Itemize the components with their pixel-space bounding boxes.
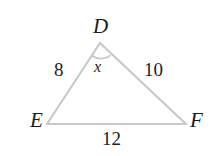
geometry-figure: D E F 8 10 12 x	[0, 0, 216, 156]
side-length-label-de: 8	[54, 60, 64, 79]
side-de-line	[47, 43, 100, 124]
angle-label-x: x	[94, 59, 101, 75]
side-df-line	[100, 43, 186, 124]
vertex-label-d: D	[93, 16, 108, 37]
vertex-label-f: F	[190, 110, 203, 131]
side-length-label-df: 10	[144, 60, 163, 79]
side-length-label-ef: 12	[102, 129, 121, 148]
vertex-label-e: E	[30, 110, 43, 131]
